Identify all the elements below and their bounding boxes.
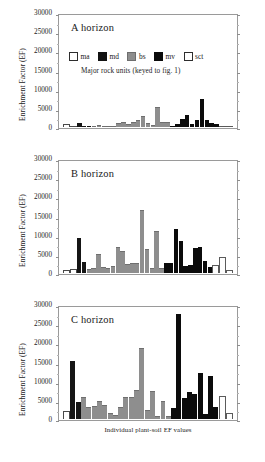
y-tick-label: 20000 [34, 195, 52, 202]
bar [155, 107, 160, 127]
bar [120, 251, 125, 273]
y-tick-mark [56, 257, 59, 258]
y-tick-mark [56, 238, 59, 239]
bar [113, 415, 118, 419]
y-tick-mark-minor [237, 412, 239, 413]
y-tick-label: 10000 [34, 87, 52, 94]
y-tick-mark-minor [57, 190, 59, 191]
y-tick-mark [237, 73, 240, 74]
bar [176, 314, 181, 419]
y-tick-mark [237, 180, 240, 181]
y-tick-label: 30000 [34, 156, 52, 163]
y-tick-mark-minor [57, 247, 59, 248]
bar [140, 210, 145, 273]
y-tick-mark-minor [237, 171, 239, 172]
y-axis-tick-labels-c: 300002500020000150001000050000 [18, 306, 56, 421]
bar [129, 397, 134, 419]
y-axis-tick-labels-b: 300002500020000150001000050000 [18, 160, 56, 275]
bar [226, 126, 233, 127]
bar [70, 126, 77, 127]
bar [134, 390, 139, 419]
y-tick-mark [237, 345, 240, 346]
bar [92, 126, 97, 127]
bar [70, 361, 75, 419]
y-tick-label: 25000 [34, 176, 52, 183]
bar [182, 398, 187, 419]
y-tick-mark-minor [237, 393, 239, 394]
y-tick-mark [237, 307, 240, 308]
y-tick-mark-minor [57, 25, 59, 26]
bar [123, 397, 128, 419]
y-tick-mark-minor [237, 247, 239, 248]
plot-area-c: C horizon [58, 306, 238, 421]
bar [136, 120, 141, 127]
y-tick-label: 0 [48, 125, 52, 132]
bar [198, 247, 203, 273]
y-tick-mark [237, 199, 240, 200]
bar [208, 376, 213, 419]
y-tick-mark-minor [237, 63, 239, 64]
y-tick-mark [237, 326, 240, 327]
y-tick-mark [56, 73, 59, 74]
y-tick-label: 25000 [34, 322, 52, 329]
bar [125, 264, 130, 273]
y-tick-mark [56, 53, 59, 54]
bar [171, 408, 176, 419]
bar [87, 269, 92, 273]
plot-area-b: B horizon [58, 160, 238, 275]
y-tick-mark-minor [57, 101, 59, 102]
y-tick-mark-minor [57, 374, 59, 375]
y-tick-mark-minor [237, 190, 239, 191]
bar [160, 122, 165, 127]
y-tick-label: 15000 [34, 68, 52, 75]
panel-b-horizon: Enrichment Factor (EF) 30000250002000015… [0, 160, 265, 305]
bar [208, 267, 213, 273]
y-tick-mark [237, 92, 240, 93]
bar [139, 348, 144, 419]
y-tick-label: 10000 [34, 233, 52, 240]
bar [76, 402, 81, 419]
bar [219, 396, 226, 419]
bar [226, 270, 233, 273]
bar [151, 125, 156, 127]
y-tick-mark [56, 275, 59, 276]
bar [150, 268, 155, 273]
panel-a-horizon: Enrichment Factor (EF) 30000250002000015… [0, 14, 265, 159]
bar-series-b [60, 162, 236, 273]
bar [131, 122, 136, 127]
y-tick-mark-minor [237, 44, 239, 45]
bar [169, 263, 174, 273]
y-tick-mark [237, 257, 240, 258]
bar [165, 122, 170, 127]
y-tick-mark [237, 384, 240, 385]
bar [111, 126, 116, 127]
y-tick-mark-minor [237, 317, 239, 318]
y-tick-mark-minor [57, 393, 59, 394]
y-tick-label: 20000 [34, 49, 52, 56]
y-tick-mark [237, 53, 240, 54]
bar [219, 126, 226, 127]
bar [82, 262, 87, 273]
y-tick-mark [56, 161, 59, 162]
bar [193, 248, 198, 273]
bar [97, 401, 102, 419]
y-tick-mark [237, 365, 240, 366]
y-tick-label: 25000 [34, 30, 52, 37]
bar [116, 247, 121, 273]
bar [86, 407, 91, 419]
y-tick-mark-minor [237, 228, 239, 229]
panel-c-horizon: Enrichment Factor (EF) 30000250002000015… [0, 306, 265, 458]
y-tick-mark [56, 15, 59, 16]
bar [87, 126, 92, 127]
bar [200, 99, 205, 127]
bar [102, 405, 107, 419]
y-tick-label: 5000 [38, 252, 52, 259]
y-tick-mark [237, 238, 240, 239]
y-tick-mark-minor [57, 82, 59, 83]
y-tick-mark [56, 199, 59, 200]
bar [97, 125, 102, 127]
bar [111, 266, 116, 273]
y-tick-mark [56, 111, 59, 112]
y-tick-mark [237, 129, 240, 130]
y-tick-mark-minor [57, 412, 59, 413]
